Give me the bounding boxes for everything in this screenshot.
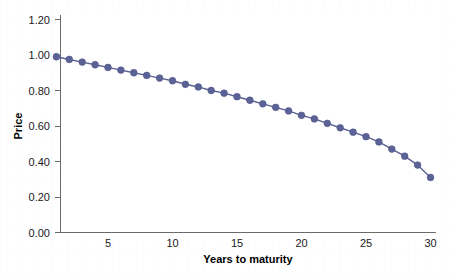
data-point	[427, 174, 434, 181]
data-point	[272, 104, 279, 111]
data-point	[388, 146, 395, 153]
data-point	[401, 153, 408, 160]
y-tick-label: 0.20	[29, 191, 50, 203]
x-tick-label: 20	[295, 237, 307, 249]
y-tick-label: 0.00	[29, 227, 50, 239]
y-axis-title: Price	[12, 113, 24, 140]
data-point	[208, 87, 215, 94]
y-tick-label: 0.60	[29, 120, 50, 132]
data-point	[337, 124, 344, 131]
data-point	[118, 67, 125, 74]
data-point	[182, 81, 189, 88]
x-tick-label: 5	[105, 237, 111, 249]
chart-container: 1.20 1.00 0.80 0.60 0.40 0.20 0.00 5 10 …	[0, 0, 456, 276]
data-point	[53, 53, 60, 60]
data-point	[363, 133, 370, 140]
data-point	[298, 112, 305, 119]
price-vs-maturity-chart: 1.20 1.00 0.80 0.60 0.40 0.20 0.00 5 10 …	[0, 0, 456, 276]
x-axis-ticks: 5 10 15 20 25 30	[105, 237, 437, 249]
data-point	[350, 129, 357, 136]
y-tick-label: 0.80	[29, 85, 50, 97]
data-point	[92, 61, 99, 68]
data-point	[259, 100, 266, 107]
data-point	[105, 64, 112, 71]
data-point	[234, 93, 241, 100]
y-tick-label: 0.40	[29, 156, 50, 168]
data-point	[79, 59, 86, 66]
x-tick-label: 30	[424, 237, 436, 249]
data-point	[376, 139, 383, 146]
data-point	[324, 120, 331, 127]
data-point	[156, 75, 163, 82]
data-point	[195, 84, 202, 91]
data-point	[247, 97, 254, 104]
plot-area-background	[60, 15, 436, 232]
y-tick-label: 1.00	[29, 49, 50, 61]
data-point	[66, 56, 73, 63]
data-point	[285, 108, 292, 115]
data-point	[169, 77, 176, 84]
data-point	[143, 72, 150, 79]
data-point	[130, 69, 137, 76]
data-point	[311, 116, 318, 123]
y-tick-label: 1.20	[29, 14, 50, 26]
y-axis-ticks: 1.20 1.00 0.80 0.60 0.40 0.20 0.00	[29, 14, 61, 239]
data-point	[221, 90, 228, 97]
x-tick-label: 15	[231, 237, 243, 249]
x-tick-label: 25	[360, 237, 372, 249]
data-point	[414, 162, 421, 169]
x-axis-title: Years to maturity	[203, 253, 293, 265]
x-tick-label: 10	[166, 237, 178, 249]
